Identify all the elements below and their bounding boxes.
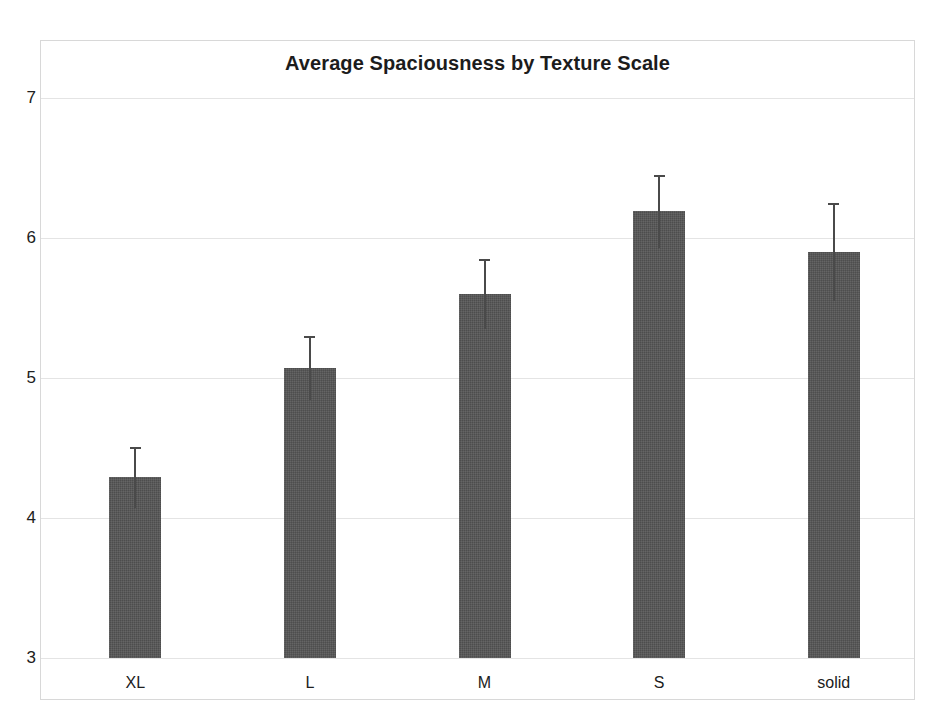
gridline-y-7 bbox=[41, 98, 914, 99]
error-bar-cap-M bbox=[479, 259, 490, 261]
x-tick-label-solid: solid bbox=[774, 675, 894, 691]
error-bar-cap-XL bbox=[130, 447, 141, 449]
bar-solid[interactable] bbox=[808, 252, 860, 658]
error-bar-cap-solid bbox=[828, 203, 839, 205]
y-tick-label-3: 3 bbox=[2, 649, 36, 666]
bar-S[interactable] bbox=[633, 211, 685, 658]
error-bar-stem-XL bbox=[134, 447, 136, 509]
bar-L[interactable] bbox=[284, 368, 336, 658]
bar-M[interactable] bbox=[459, 294, 511, 658]
error-bar-cap-L bbox=[304, 336, 315, 338]
x-tick-label-L: L bbox=[250, 675, 370, 691]
chart-title: Average Spaciousness by Texture Scale bbox=[40, 52, 915, 75]
error-bar-stem-M bbox=[484, 259, 486, 329]
error-bar-stem-solid bbox=[833, 203, 835, 301]
gridline-y-6 bbox=[41, 238, 914, 239]
gridline-y-3 bbox=[41, 658, 914, 659]
x-tick-label-S: S bbox=[599, 675, 719, 691]
error-bar-stem-L bbox=[309, 336, 311, 400]
x-tick-label-M: M bbox=[425, 675, 545, 691]
error-bar-stem-S bbox=[658, 175, 660, 248]
chart-figure: Average Spaciousness by Texture Scale 34… bbox=[0, 0, 951, 728]
y-tick-label-7: 7 bbox=[2, 89, 36, 106]
y-tick-label-5: 5 bbox=[2, 369, 36, 386]
y-tick-label-4: 4 bbox=[2, 509, 36, 526]
error-bar-cap-S bbox=[654, 175, 665, 177]
x-tick-label-XL: XL bbox=[75, 675, 195, 691]
y-tick-label-6: 6 bbox=[2, 229, 36, 246]
